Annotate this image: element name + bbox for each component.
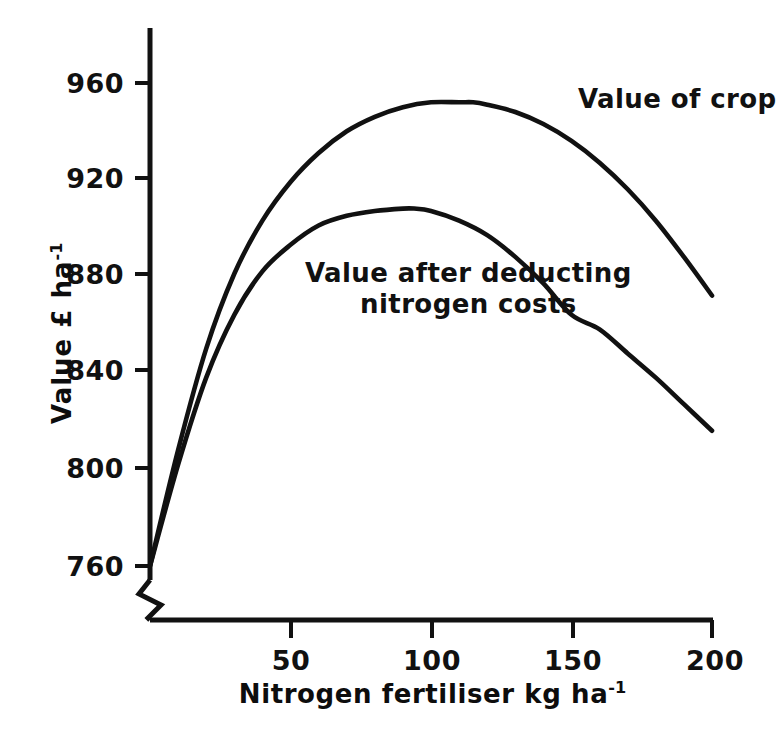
x-tick-label-50: 50 — [272, 645, 311, 676]
x-tick-label-150: 150 — [544, 645, 602, 676]
annotation-value-after-deducting-nitrogen-costs: Value after deducting nitrogen costs — [305, 258, 632, 319]
y-axis-break-symbol — [139, 580, 161, 620]
annotation-value-of-crop: Value of crop — [578, 84, 777, 115]
x-tick-label-100: 100 — [403, 645, 461, 676]
y-axis-title: Value £ ha-1 — [47, 203, 78, 463]
y-axis-title-exponent: -1 — [47, 243, 66, 261]
y-tick-label-760: 760 — [36, 551, 124, 582]
y-axis-title-text: Value £ ha — [47, 261, 77, 425]
annotation-line-2: nitrogen costs — [305, 289, 632, 320]
x-axis-ticks — [291, 620, 712, 638]
annotation-line-1: Value after deducting — [305, 258, 632, 289]
y-tick-label-960: 960 — [36, 68, 124, 99]
x-axis-title-exponent: -1 — [608, 678, 626, 697]
x-axis-title: Nitrogen fertiliser kg ha-1 — [150, 678, 715, 709]
y-tick-label-920: 920 — [36, 163, 124, 194]
x-tick-label-200: 200 — [686, 645, 744, 676]
curve-value-of-crop — [150, 102, 712, 566]
x-axis-title-text: Nitrogen fertiliser kg ha — [239, 679, 609, 709]
